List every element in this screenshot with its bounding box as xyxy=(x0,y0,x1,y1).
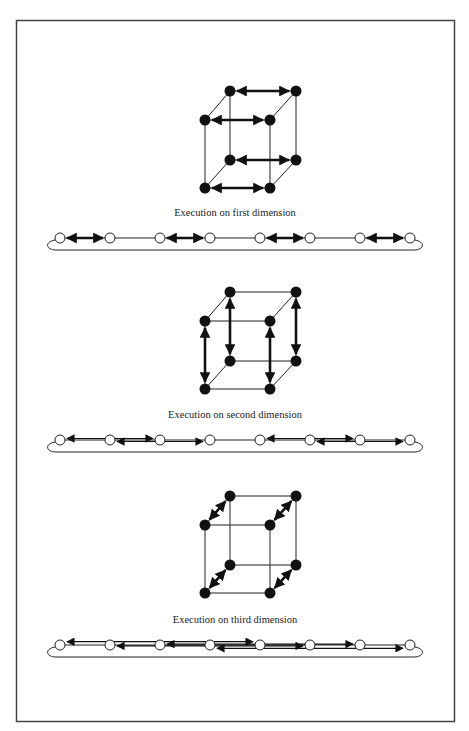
ring-node xyxy=(105,233,115,243)
processor-node xyxy=(200,316,211,327)
ring-node xyxy=(355,435,365,445)
ring-diagram xyxy=(48,435,423,452)
cube-diagram xyxy=(200,86,302,194)
ring-node xyxy=(105,640,115,650)
cube-diagram xyxy=(200,287,302,395)
exchange-arrow xyxy=(275,501,292,520)
ring-diagram xyxy=(48,233,423,250)
processor-node xyxy=(225,356,236,367)
ring-node xyxy=(405,640,415,650)
ring-wraparound-link xyxy=(48,240,423,250)
processor-node xyxy=(200,183,211,194)
ring-node xyxy=(355,233,365,243)
cube-edge xyxy=(205,292,230,321)
processor-node xyxy=(291,287,302,298)
ring-node xyxy=(55,435,65,445)
ring-node xyxy=(255,640,265,650)
cube-edge xyxy=(270,292,296,321)
ring-node xyxy=(405,435,415,445)
processor-node xyxy=(265,316,276,327)
caption-first-dimension: Execution on first dimension xyxy=(174,207,296,218)
processor-node xyxy=(200,384,211,395)
ring-node xyxy=(155,435,165,445)
ring-node xyxy=(305,435,315,445)
panel-first-dimension: Execution on first dimension xyxy=(48,86,423,251)
ring-node xyxy=(205,640,215,650)
cube-edge xyxy=(205,160,230,188)
processor-node xyxy=(200,115,211,126)
processor-node xyxy=(265,588,276,599)
hypercube-exchange-figure: Execution on first dimension Execution o… xyxy=(0,0,469,731)
panel-second-dimension: Execution on second dimension xyxy=(48,287,423,453)
processor-node xyxy=(291,356,302,367)
cube-diagram xyxy=(200,491,302,599)
ring-node xyxy=(105,435,115,445)
exchange-arrow xyxy=(210,570,226,588)
ring-node xyxy=(355,640,365,650)
processor-node xyxy=(225,86,236,97)
processor-node xyxy=(291,560,302,571)
processor-node xyxy=(200,520,211,531)
ring-node xyxy=(55,233,65,243)
processor-node xyxy=(265,115,276,126)
ring-node xyxy=(305,640,315,650)
processor-node xyxy=(225,287,236,298)
ring-node xyxy=(155,640,165,650)
processor-node xyxy=(291,491,302,502)
cube-edge xyxy=(205,361,230,389)
ring-node xyxy=(405,233,415,243)
exchange-arrow xyxy=(210,501,226,519)
ring-node xyxy=(255,435,265,445)
ring-wraparound-link xyxy=(48,442,423,452)
ring-node xyxy=(55,640,65,650)
ring-node xyxy=(255,233,265,243)
ring-node xyxy=(205,435,215,445)
processor-node xyxy=(265,384,276,395)
ring-node xyxy=(155,233,165,243)
caption-second-dimension: Execution on second dimension xyxy=(168,409,303,420)
processor-node xyxy=(265,520,276,531)
processor-node xyxy=(200,588,211,599)
cube-edge xyxy=(205,91,230,120)
processor-node xyxy=(265,183,276,194)
cube-edge xyxy=(270,91,296,120)
ring-node xyxy=(205,233,215,243)
caption-third-dimension: Execution on third dimension xyxy=(173,614,298,625)
processor-node xyxy=(225,155,236,166)
ring-diagram xyxy=(48,640,423,657)
processor-node xyxy=(225,560,236,571)
exchange-arrow xyxy=(275,570,291,588)
cube-edge xyxy=(270,361,296,389)
processor-node xyxy=(291,155,302,166)
processor-node xyxy=(225,491,236,502)
cube-edge xyxy=(270,160,296,188)
panel-third-dimension: Execution on third dimension xyxy=(48,491,423,658)
processor-node xyxy=(291,86,302,97)
ring-node xyxy=(305,233,315,243)
